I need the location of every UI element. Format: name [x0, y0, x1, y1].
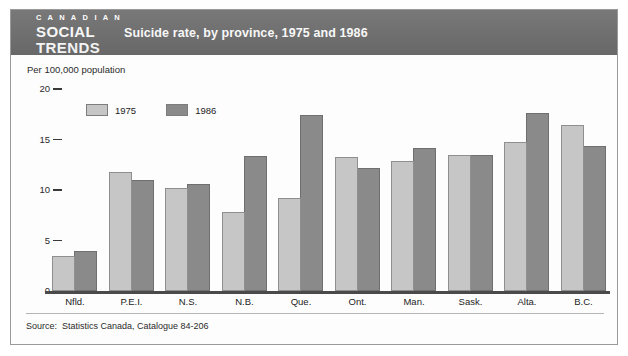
brand-line-trends: TRENDS — [36, 40, 122, 55]
bar-ont-1986 — [357, 168, 380, 291]
bar-group — [504, 80, 550, 291]
bar-sask-1975 — [448, 155, 471, 291]
bar-group — [335, 80, 381, 291]
bar-ns-1986 — [187, 184, 210, 291]
bar-alta-1986 — [526, 113, 549, 291]
header-band: C A N A D I A N SOCIAL TRENDS Suicide ra… — [11, 10, 617, 55]
bar-group — [165, 80, 211, 291]
brand-line-social: SOCIAL — [36, 24, 122, 41]
bar-ns-1975 — [165, 188, 188, 291]
brand-logo: C A N A D I A N SOCIAL TRENDS — [36, 14, 122, 55]
bar-man-1986 — [413, 148, 436, 291]
bar-man-1975 — [391, 161, 414, 291]
bar-group — [278, 80, 324, 291]
y-axis-label: Per 100,000 population — [27, 64, 125, 75]
source-text: Statistics Canada, Catalogue 84-206 — [62, 321, 209, 331]
bar-bc-1986 — [583, 146, 606, 291]
bar-pei-1986 — [131, 180, 154, 291]
x-axis-line — [45, 291, 610, 294]
bar-group — [109, 80, 155, 291]
bar-que-1975 — [278, 198, 301, 291]
plot-area: 05101520 1975 1986 Nfld.P.E.I.N.S.N.B.Qu… — [18, 80, 610, 302]
bar-sask-1986 — [470, 155, 493, 291]
x-axis-labels: Nfld.P.E.I.N.S.N.B.Que.Ont.Man.Sask.Alta… — [45, 296, 610, 312]
bar-ont-1975 — [335, 157, 358, 291]
bar-group — [561, 80, 607, 291]
bar-group — [52, 80, 98, 291]
bar-pei-1975 — [109, 172, 132, 291]
brand-line-canadian: C A N A D I A N — [36, 14, 122, 22]
bar-nfld-1986 — [74, 251, 97, 291]
bar-nfld-1975 — [52, 256, 75, 291]
x-label-bc: B.C. — [549, 296, 619, 307]
bar-bc-1975 — [561, 125, 584, 291]
bar-nb-1975 — [222, 212, 245, 291]
bar-que-1986 — [300, 115, 323, 291]
bar-group — [222, 80, 268, 291]
bar-group — [391, 80, 437, 291]
source-divider — [26, 313, 604, 314]
source-note: Source:Statistics Canada, Catalogue 84-2… — [26, 321, 209, 331]
bar-groups — [45, 80, 610, 291]
chart-title: Suicide rate, by province, 1975 and 1986 — [124, 26, 368, 40]
bar-nb-1986 — [244, 156, 267, 291]
source-label: Source: — [26, 321, 57, 331]
bar-group — [448, 80, 494, 291]
bar-alta-1975 — [504, 142, 527, 291]
chart-figure: C A N A D I A N SOCIAL TRENDS Suicide ra… — [0, 0, 628, 356]
